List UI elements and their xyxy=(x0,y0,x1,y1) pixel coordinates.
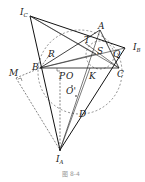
label-ic: IC xyxy=(19,7,29,18)
label-m: M xyxy=(8,68,19,78)
label-ib: IB xyxy=(132,42,141,53)
label-t: T xyxy=(84,35,91,45)
label-d: D xyxy=(78,109,86,119)
label-oprime: O' xyxy=(66,86,76,96)
excentral-triangle xyxy=(30,16,125,150)
point-ia-dot xyxy=(59,149,61,151)
label-ia: IA xyxy=(55,154,64,165)
label-o: O xyxy=(66,71,74,81)
label-c: C xyxy=(117,69,124,79)
geometry-diagram: IC A IB T S Q R B C M P O K O' D IA 图 8-… xyxy=(0,0,145,182)
label-r: R xyxy=(47,49,55,59)
label-b: B xyxy=(31,62,39,72)
label-q: Q xyxy=(113,49,121,59)
figure-caption: 图 8-4 xyxy=(62,170,80,178)
label-k: K xyxy=(88,71,97,81)
diagram-canvas: IC A IB T S Q R B C M P O K O' D IA 图 8-… xyxy=(0,0,145,182)
construction-lines xyxy=(30,16,125,150)
label-p: P xyxy=(58,71,66,81)
label-a: A xyxy=(97,21,105,31)
label-s: S xyxy=(97,46,103,56)
